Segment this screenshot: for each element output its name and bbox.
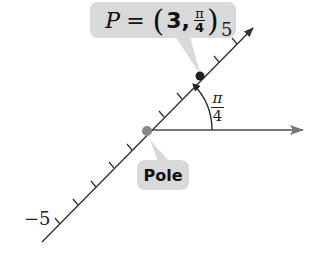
angle-arc	[193, 84, 212, 130]
pole-callout-tail	[150, 140, 170, 162]
tick-label-positive: 5	[221, 19, 232, 40]
point-callout-tail	[175, 36, 200, 74]
angle-label: π 4	[211, 91, 224, 124]
pole-point	[142, 126, 152, 136]
tick-label-negative: −5	[24, 208, 51, 229]
r-value: 3	[166, 8, 181, 33]
open-paren: (	[153, 3, 165, 38]
equals-sign: =	[126, 8, 144, 33]
theta-denominator: 4	[195, 21, 204, 34]
angle-numerator: π	[213, 91, 223, 106]
comma: ,	[182, 8, 190, 33]
point-label-callout: P = ( 3 , π 4 )	[90, 2, 236, 38]
theta-numerator: π	[195, 7, 204, 20]
point-name: P	[105, 8, 120, 33]
point-p	[196, 72, 205, 81]
pole-label: Pole	[143, 166, 182, 185]
pole-label-callout: Pole	[137, 160, 189, 190]
close-paren: )	[207, 3, 219, 38]
theta-fraction: π 4	[194, 7, 205, 34]
angle-denominator: 4	[213, 109, 223, 124]
